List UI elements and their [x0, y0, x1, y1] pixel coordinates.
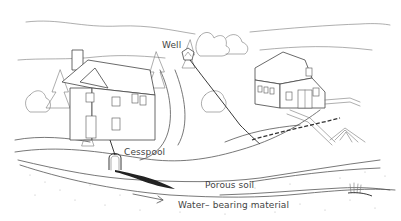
flow-arrow — [133, 194, 163, 203]
water-bearing-material-label: Water– bearing material — [178, 200, 289, 210]
diagram-illustration — [0, 0, 401, 221]
cesspool-pipe — [110, 140, 115, 155]
cesspool-label: Cesspool — [124, 147, 165, 157]
barn — [255, 52, 325, 108]
contamination-plume — [115, 170, 175, 189]
well-pipe — [190, 60, 260, 144]
manure-pile — [330, 128, 365, 142]
barn-drainage-line — [252, 118, 340, 140]
groundwater-contamination-diagram: Well Cesspool Porous soil Water– bearing… — [0, 0, 401, 221]
well-label: Well — [162, 40, 181, 50]
cesspool — [109, 154, 121, 171]
well — [182, 48, 194, 60]
house — [62, 50, 155, 146]
porous-soil-label: Porous soil — [205, 180, 254, 190]
